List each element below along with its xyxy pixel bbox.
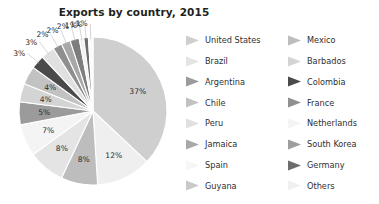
legend-marker-triangle-icon (288, 76, 301, 87)
legend-item-label: Germany (307, 161, 345, 169)
pie-value-label: 8% (56, 144, 68, 153)
legend-item-label: Brazil (205, 57, 228, 65)
legend-marker-triangle-icon (186, 56, 199, 67)
legend-item-label: Spain (205, 161, 228, 169)
pie-chart-plot: 37%12%8%8%7%5%4%4%3%3%2%2%2%1%1%1% (0, 18, 186, 204)
pie-value-label: 37% (129, 87, 146, 96)
legend-item[interactable]: Netherlands (288, 113, 379, 134)
pie-value-label: 12% (105, 151, 122, 160)
legend-marker-triangle-icon (288, 139, 301, 150)
legend-item-label: Mexico (307, 36, 336, 44)
legend-marker-triangle-icon (186, 160, 199, 171)
legend-item[interactable]: Jamaica (186, 134, 288, 155)
pie-value-label: 3% (13, 49, 25, 58)
chart-title: Exports by country, 2015 (0, 6, 268, 18)
legend-item-label: Colombia (307, 78, 345, 86)
legend-item-label: Jamaica (205, 140, 237, 148)
legend-item-label: Guyana (205, 182, 237, 190)
legend-item[interactable]: Others (288, 176, 379, 197)
legend-item[interactable]: Barbados (288, 51, 379, 72)
legend-item-label: Argentina (205, 78, 245, 86)
pie-leader-line (28, 54, 40, 64)
legend-item[interactable]: Colombia (288, 72, 379, 93)
pie-value-label: 7% (42, 126, 54, 135)
legend-item-label: Others (307, 182, 335, 190)
legend-item[interactable]: France (288, 92, 379, 113)
legend-item[interactable]: Spain (186, 155, 288, 176)
legend-item-label: United States (205, 36, 260, 44)
pie-value-label: 4% (40, 95, 52, 104)
legend-item-label: France (307, 99, 334, 107)
legend-item-label: Peru (205, 119, 223, 127)
pie-value-label: 4% (44, 83, 56, 92)
legend-item-label: Netherlands (307, 119, 357, 127)
legend-item[interactable]: Brazil (186, 51, 288, 72)
legend-item[interactable]: Germany (288, 155, 379, 176)
legend-marker-triangle-icon (288, 35, 301, 46)
pie-svg: 37%12%8%8%7%5%4%4%3%3%2%2%2%1%1%1% (0, 18, 186, 204)
legend-marker-triangle-icon (288, 180, 301, 191)
pie-value-label: 3% (25, 38, 37, 47)
legend-item[interactable]: Mexico (288, 30, 379, 51)
legend-column-left: United States Brazil Argentina Chile Per… (186, 30, 288, 196)
legend-marker-triangle-icon (288, 97, 301, 108)
pie-value-label: 1% (76, 19, 88, 28)
legend-item[interactable]: Chile (186, 92, 288, 113)
legend-item[interactable]: Argentina (186, 72, 288, 93)
pie-value-label: 8% (78, 155, 90, 164)
legend-item-label: Chile (205, 99, 226, 107)
legend-item-label: South Korea (307, 140, 357, 148)
legend-marker-triangle-icon (288, 56, 301, 67)
legend-item[interactable]: South Korea (288, 134, 379, 155)
legend-item[interactable]: Guyana (186, 176, 288, 197)
chart-legend: United States Brazil Argentina Chile Per… (186, 30, 379, 196)
legend-marker-triangle-icon (186, 35, 199, 46)
pie-leader-line (40, 42, 49, 54)
legend-item-label: Barbados (307, 57, 346, 65)
legend-item[interactable]: United States (186, 30, 288, 51)
legend-marker-triangle-icon (288, 160, 301, 171)
legend-item[interactable]: Peru (186, 113, 288, 134)
pie-leader-line (61, 30, 67, 44)
legend-marker-triangle-icon (186, 180, 199, 191)
pie-leader-line (51, 35, 58, 48)
legend-marker-triangle-icon (186, 76, 199, 87)
pie-value-label: 5% (38, 108, 50, 117)
pie-chart-figure: Exports by country, 2015 37%12%8%8%7%5%4… (0, 0, 379, 204)
legend-marker-triangle-icon (186, 97, 199, 108)
legend-column-right: Mexico Barbados Colombia France Netherla… (288, 30, 379, 196)
legend-marker-triangle-icon (288, 118, 301, 129)
legend-marker-triangle-icon (186, 118, 199, 129)
legend-marker-triangle-icon (186, 139, 199, 150)
